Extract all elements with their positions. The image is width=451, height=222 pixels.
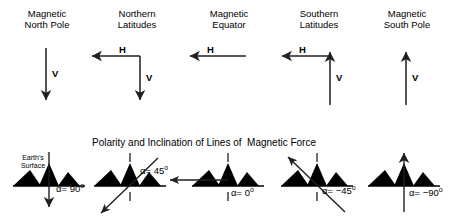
terrain-peak-left-2 bbox=[94, 170, 122, 186]
alpha-text-45: α= 45 bbox=[140, 165, 164, 176]
alpha-text-0: α= 0 bbox=[231, 187, 250, 198]
degree-symbol-minus-90: o bbox=[439, 186, 443, 193]
degree-symbol-0: o bbox=[250, 186, 254, 193]
earth-surface-label: Earth's Surface bbox=[8, 154, 58, 170]
vector-group-southern-latitudes bbox=[282, 52, 330, 105]
magnetic-inclination-diagram: Magnetic North Pole Northern Latitudes M… bbox=[0, 0, 451, 222]
terrain-peak-center-4 bbox=[307, 163, 327, 186]
vector-label-h-2: H bbox=[119, 44, 126, 55]
alpha-label-minus-45: α= −45o bbox=[322, 184, 356, 196]
alpha-label-minus-90: α= −90o bbox=[409, 186, 443, 198]
degree-symbol-minus-45: o bbox=[352, 184, 356, 191]
terrain-peak-center-3 bbox=[218, 163, 238, 186]
terrain-peak-left-5 bbox=[368, 170, 396, 186]
alpha-label-45: α= 45o bbox=[140, 164, 168, 176]
degree-symbol-90: o bbox=[80, 182, 84, 189]
terrain-group-alpha-minus-45 bbox=[281, 153, 353, 212]
alpha-label-0: α= 0o bbox=[231, 186, 254, 198]
terrain-group-alpha-minus-90 bbox=[368, 153, 440, 212]
column-title-magnetic-north-pole: Magnetic North Pole bbox=[6, 8, 88, 30]
vector-label-v-5: V bbox=[412, 72, 418, 83]
terrain-group-alpha-45 bbox=[94, 153, 166, 213]
terrain-peak-right-5 bbox=[413, 172, 435, 186]
column-title-northern-latitudes: Northern Latitudes bbox=[96, 8, 178, 30]
terrain-peak-left-1 bbox=[13, 170, 41, 186]
column-title-magnetic-south-pole: Magnetic South Pole bbox=[366, 8, 448, 30]
alpha-text-minus-90: α= −90 bbox=[409, 187, 439, 198]
terrain-peak-right-3 bbox=[237, 172, 259, 186]
terrain-peak-center-2 bbox=[120, 163, 140, 186]
alpha-label-90: α= 90o bbox=[56, 182, 84, 194]
vector-label-v-1: V bbox=[52, 68, 58, 79]
vector-label-h-4: H bbox=[299, 44, 306, 55]
vector-label-h-3: H bbox=[207, 44, 214, 55]
degree-symbol-45: o bbox=[164, 164, 168, 171]
terrain-peak-left-3 bbox=[192, 170, 220, 186]
section-title: Polarity and Inclination of Lines of Mag… bbox=[92, 137, 316, 148]
column-title-magnetic-equator: Magnetic Equator bbox=[188, 8, 270, 30]
column-title-southern-latitudes: Southern Latitudes bbox=[278, 8, 360, 30]
alpha-text-90: α= 90 bbox=[56, 183, 80, 194]
vector-label-v-4: V bbox=[336, 72, 342, 83]
alpha-text-minus-45: α= −45 bbox=[322, 185, 352, 196]
vector-group-northern-latitudes bbox=[92, 56, 140, 100]
vector-label-v-2: V bbox=[146, 72, 152, 83]
